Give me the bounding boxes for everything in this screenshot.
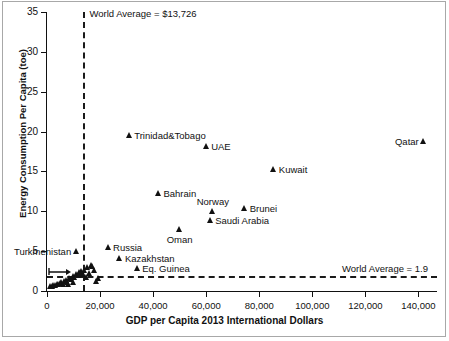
y-tick-label-wrap: 10 (6, 206, 38, 216)
x-tick-mark (365, 292, 366, 297)
data-point-marker (241, 205, 247, 211)
y-tick-label: 0 (8, 286, 38, 296)
y-tick-mark (41, 92, 47, 93)
x-tick-mark (418, 292, 419, 297)
x-tick-label: 40,000 (123, 300, 183, 311)
world-average-gdp-line (83, 12, 85, 291)
y-tick-label: 20 (8, 127, 38, 137)
y-tick-label-wrap: 20 (6, 127, 38, 137)
x-tick-label: 100,000 (282, 300, 342, 311)
chart-figure: Energy Consumption Per Capita (toe) GDP … (0, 0, 449, 341)
data-point-label: Bahrain (163, 188, 196, 199)
data-point-label: Eq. Guinea (142, 263, 190, 274)
data-point-marker (203, 143, 209, 149)
data-point-marker (116, 255, 122, 261)
data-point-label: Norway (197, 196, 229, 207)
x-tick-label: 60,000 (176, 300, 236, 311)
y-tick-mark (41, 211, 47, 212)
y-tick-label-wrap: 15 (6, 166, 38, 176)
x-tick-mark (100, 292, 101, 297)
y-tick-mark (41, 12, 47, 13)
y-tick-mark (41, 52, 47, 53)
data-point-marker (207, 217, 213, 223)
x-tick-label: 120,000 (335, 300, 395, 311)
data-point-marker (65, 281, 71, 287)
x-tick-label: 140,000 (388, 300, 448, 311)
x-tick-label: 0 (17, 300, 77, 311)
world-average-energy-line (47, 276, 437, 278)
x-tick-mark (47, 292, 48, 297)
data-point-marker (155, 190, 161, 196)
data-point-label: UAE (211, 141, 231, 152)
data-point-marker (420, 138, 426, 144)
data-point-marker (76, 269, 82, 275)
data-point-label: Trinidad&Tobago (134, 129, 205, 140)
y-tick-label-wrap: 35 (6, 7, 38, 17)
x-tick-label: 20,000 (70, 300, 130, 311)
data-point-marker (270, 166, 276, 172)
y-tick-label-wrap: 0 (6, 286, 38, 296)
x-tick-mark (312, 292, 313, 297)
data-point-label: Turkmenistan (14, 245, 71, 256)
x-axis-line (46, 291, 437, 292)
data-point-marker (70, 279, 76, 285)
data-point-label: Brunei (250, 203, 277, 214)
x-axis-title: GDP per Capita 2013 International Dollar… (0, 315, 449, 326)
x-tick-mark (206, 292, 207, 297)
world-average-energy-label: World Average = 1.9 (342, 263, 428, 274)
data-point-marker (91, 267, 97, 273)
x-tick-label: 80,000 (229, 300, 289, 311)
x-tick-mark (153, 292, 154, 297)
data-point-marker (134, 265, 140, 271)
y-tick-label: 35 (8, 7, 38, 17)
data-point-label: Saudi Arabia (215, 215, 269, 226)
data-point-label: Kuwait (279, 164, 308, 175)
data-point-marker (95, 275, 101, 281)
data-point-marker (176, 226, 182, 232)
y-tick-label: 10 (8, 206, 38, 216)
data-point-marker (126, 132, 132, 138)
data-point-label: Qatar (395, 135, 419, 146)
y-tick-label: 25 (8, 87, 38, 97)
y-tick-label-wrap: 25 (6, 87, 38, 97)
world-average-gdp-label: World Average = $13,726 (89, 8, 196, 19)
data-point-marker (73, 248, 79, 254)
data-point-label: Russia (113, 241, 142, 252)
x-tick-mark (259, 292, 260, 297)
y-tick-label: 15 (8, 166, 38, 176)
data-point-label: Oman (167, 234, 193, 245)
y-tick-label: 30 (8, 47, 38, 57)
data-point-marker (105, 244, 111, 250)
y-tick-label-wrap: 30 (6, 47, 38, 57)
data-point-label: Kazakhstan (125, 252, 175, 263)
y-tick-mark (41, 132, 47, 133)
y-tick-mark (41, 171, 47, 172)
data-point-marker (209, 208, 215, 214)
